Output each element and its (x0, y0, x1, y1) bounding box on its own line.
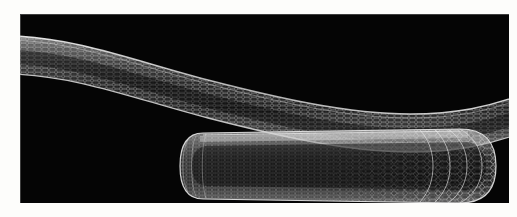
lower-tube-core-shadow (192, 142, 486, 190)
lower-nanotube (20, 14, 509, 203)
lower-nanotube-svg (20, 14, 509, 203)
figure-root (0, 0, 517, 217)
lower-tube-body (170, 119, 509, 203)
render-canvas (20, 14, 509, 203)
